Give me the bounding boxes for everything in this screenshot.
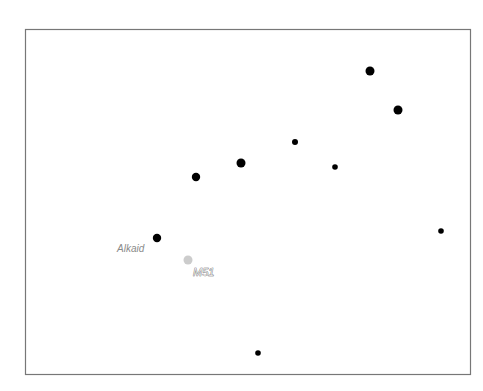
- star-1: [366, 67, 375, 76]
- dso-m51: [184, 256, 193, 265]
- star-label-alkaid: Alkaid: [116, 243, 145, 254]
- star-chart: Alkaid M51: [0, 0, 483, 391]
- star-5: [292, 139, 298, 145]
- deep-sky-layer: [184, 256, 193, 265]
- chart-frame: [26, 30, 471, 375]
- star-8: [438, 228, 444, 234]
- star-9: [255, 350, 261, 356]
- star-4: [237, 159, 246, 168]
- star-6: [332, 164, 338, 170]
- dso-label-m51: M51: [193, 266, 214, 278]
- star-alkaid: [153, 234, 161, 242]
- star-3: [192, 173, 200, 181]
- star-2: [394, 106, 403, 115]
